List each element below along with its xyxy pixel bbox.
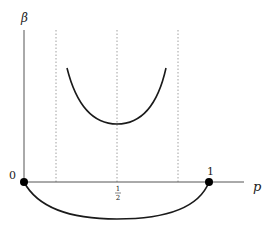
tick-label-one: 1 <box>207 165 214 178</box>
tick-label-half-denominator: 2 <box>116 194 120 202</box>
tick-label-half: 1 2 <box>115 185 121 202</box>
tick-label-zero: 0 <box>9 169 16 182</box>
tick-label-half-numerator: 1 <box>116 185 120 193</box>
point-one <box>205 178 213 186</box>
diagram-canvas: β p 0 1 1 2 <box>0 0 272 228</box>
point-origin <box>20 178 28 186</box>
upper-u-curve <box>67 68 166 124</box>
y-axis-label: β <box>20 11 28 25</box>
x-axis-label: p <box>253 179 262 194</box>
